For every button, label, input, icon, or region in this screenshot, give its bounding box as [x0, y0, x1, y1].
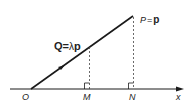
right-angle-mark-m — [85, 83, 90, 89]
label-q-vec: p — [74, 40, 81, 52]
label-p-point: P — [140, 15, 146, 25]
label-p-eq: = — [147, 15, 152, 25]
label-q-point: Q — [54, 40, 63, 52]
label-p-vec: p — [153, 14, 159, 25]
label-x-axis: x — [176, 93, 181, 102]
vector-line-op — [31, 16, 133, 89]
label-origin: O — [22, 93, 29, 102]
label-p: P=p — [140, 10, 159, 26]
label-m: M — [83, 93, 91, 102]
label-q: Q=λp — [54, 37, 81, 53]
right-angle-mark-n — [129, 83, 134, 89]
x-axis-arrowhead — [176, 87, 184, 92]
label-n: N — [129, 93, 136, 102]
